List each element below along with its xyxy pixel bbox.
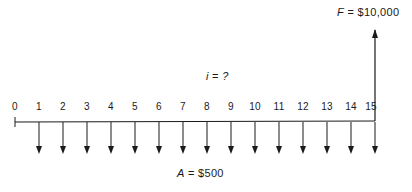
arrowhead-down-icon: [204, 146, 210, 154]
period-label: 11: [274, 101, 285, 112]
period-label: 5: [132, 101, 138, 112]
arrowhead-down-icon: [348, 146, 354, 154]
period-label: 15: [365, 101, 377, 112]
interest-label: i = ?: [206, 70, 229, 82]
period-label: 6: [156, 101, 162, 112]
time-axis: [15, 117, 375, 127]
arrowhead-down-icon: [324, 146, 330, 154]
interest-symbol: i: [206, 70, 209, 82]
future-value-amount: $10,000: [357, 6, 399, 18]
arrowhead-down-icon: [60, 146, 66, 154]
arrowhead-down-icon: [36, 146, 42, 154]
equals-sign: =: [212, 70, 219, 82]
arrowhead-down-icon: [84, 146, 90, 154]
period-label: 1: [36, 101, 42, 112]
future-value-arrowhead: [372, 29, 378, 38]
period-label: 4: [108, 101, 114, 112]
future-value-symbol: F: [337, 6, 344, 18]
annuity-amount: $500: [198, 167, 224, 179]
arrowhead-down-icon: [108, 146, 114, 154]
arrowhead-down-icon: [156, 146, 162, 154]
cash-flow-diagram: [0, 0, 412, 192]
period-label: 10: [249, 101, 261, 112]
period-label: 7: [180, 101, 186, 112]
arrowhead-down-icon: [180, 146, 186, 154]
equals-sign: =: [347, 6, 354, 18]
arrowhead-down-icon: [300, 146, 306, 154]
period-label: 3: [84, 101, 90, 112]
period-label: 12: [297, 101, 309, 112]
arrowhead-down-icon: [372, 146, 378, 154]
period-label: 13: [321, 101, 333, 112]
arrowhead-down-icon: [276, 146, 282, 154]
annuity-label: A = $500: [177, 167, 224, 179]
arrowhead-down-icon: [228, 146, 234, 154]
period-label: 9: [228, 101, 234, 112]
interest-value: ?: [222, 70, 228, 82]
future-value-label: F = $10,000: [337, 6, 399, 18]
arrowhead-down-icon: [132, 146, 138, 154]
arrowhead-down-icon: [252, 146, 258, 154]
period-label: 8: [204, 101, 210, 112]
annuity-arrows: [36, 122, 378, 154]
equals-sign: =: [188, 167, 195, 179]
annuity-symbol: A: [177, 167, 185, 179]
period-label: 0: [12, 101, 18, 112]
period-label: 14: [345, 101, 357, 112]
period-label: 2: [60, 101, 66, 112]
